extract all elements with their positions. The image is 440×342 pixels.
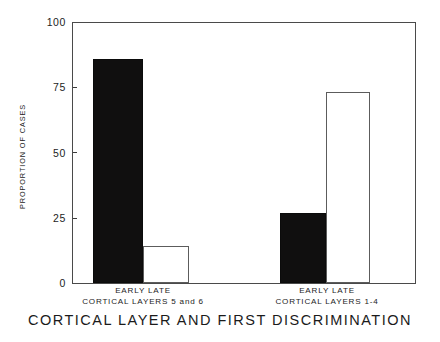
y-tick-label-100: 100 [36,16,66,28]
group-label-layers14-row2: CORTICAL LAYERS 1-4 [262,297,392,306]
chart-title: CORTICAL LAYER AND FIRST DISCRIMINATION [0,312,440,328]
group-label-layers56-row2: CORTICAL LAYERS 5 and 6 [78,297,208,306]
y-tick-label-25: 25 [36,212,66,224]
plot-top-border [72,22,416,23]
group-label-layers14: EARLY LATE CORTICAL LAYERS 1-4 [262,286,392,312]
group-label-layers14-row1: EARLY LATE [262,286,392,295]
y-tick-label-50: 50 [36,147,66,159]
group-label-layers56: EARLY LATE CORTICAL LAYERS 5 and 6 [78,286,208,312]
bar-layers56-early [93,59,143,283]
group-label-layers56-row1: EARLY LATE [78,286,208,295]
bar-layers56-late [143,246,189,283]
y-tick-label-0: 0 [36,277,66,289]
bar-chart-figure: PROPORTION OF CASES 100 75 50 25 0 EARLY… [0,0,440,342]
bar-layers14-late [326,92,370,283]
y-axis-line [72,22,73,284]
bar-layers14-early [280,213,326,283]
y-axis-tick-labels: 100 75 50 25 0 [28,0,66,342]
y-tick-label-75: 75 [36,81,66,93]
y-axis-title: PROPORTION OF CASES [18,72,27,242]
plot-right-border [415,22,416,284]
